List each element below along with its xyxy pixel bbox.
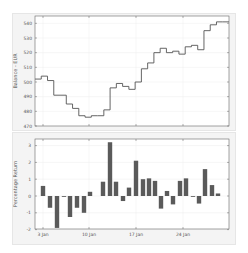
return-bar [114,182,118,196]
return-bar [127,188,131,196]
chart-canvas: 470480490500510520530540Balance - EUR-2-… [0,0,248,253]
return-bar [101,182,105,196]
return-bar [82,196,86,213]
return-xtick-label: 24 Jan [176,232,190,237]
balance-ytick-label: 470 [23,124,32,129]
balance-ytick-label: 480 [23,109,32,114]
return-bar [41,186,45,196]
balance-ytick-label: 530 [23,36,32,41]
balance-ytick-label: 510 [23,65,32,70]
return-bar [165,191,169,196]
return-xtick-label: 17 Jan [129,232,143,237]
return-xtick-label: 10 Jan [82,232,96,237]
return-bar [121,196,125,201]
return-bar [171,196,175,204]
return-ylabel: Percentage Return [12,161,19,207]
return-bar [62,196,66,197]
balance-ylabel: Balance - EUR [12,53,18,89]
return-ytick-label: 3 [28,143,31,148]
return-bar [75,196,79,208]
return-ytick-label: -2 [27,227,32,232]
return-ytick-label: 1 [28,177,31,182]
balance-ytick-label: 520 [23,50,32,55]
return-bar [141,179,145,196]
return-bar [216,193,220,196]
return-bar [48,196,52,208]
return-bar [147,178,151,196]
balance-ytick-label: 500 [23,80,32,85]
return-bar [153,181,157,196]
return-bar [197,196,201,204]
return-ytick-label: -1 [27,210,32,215]
balance-plot-area [35,16,229,126]
balance-ytick-label: 540 [23,21,32,26]
return-ytick-label: 2 [28,160,31,165]
return-bar [184,178,188,196]
return-bar [159,196,163,209]
return-bar [55,196,59,228]
return-bar [134,161,138,196]
return-xtick-label: 3 Jan [37,232,48,237]
return-bar [203,169,207,196]
balance-ytick-label: 490 [23,94,32,99]
return-bar [178,181,182,196]
return-plot-area [35,139,229,229]
return-bar [210,185,214,196]
return-bar [191,196,195,197]
return-ytick-label: 0 [28,194,31,199]
return-bar [88,192,92,196]
return-bar [68,196,72,217]
return-bar [108,142,112,196]
